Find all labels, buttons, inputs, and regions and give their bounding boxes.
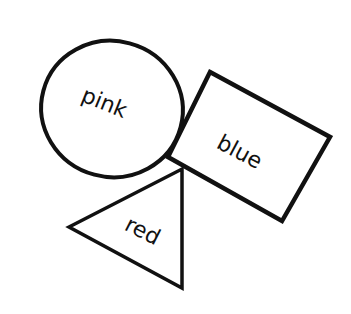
shapes-diagram: red blue pink — [0, 0, 351, 314]
